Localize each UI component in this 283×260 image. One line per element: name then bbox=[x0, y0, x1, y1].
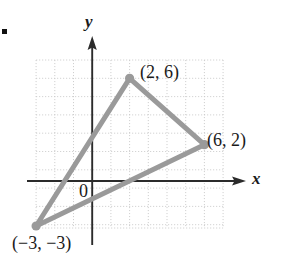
x-axis-label: x bbox=[252, 170, 261, 187]
point-label-2-6: (2, 6) bbox=[140, 63, 179, 81]
point-label-neg3-neg3: (−3, −3) bbox=[12, 234, 71, 252]
grid-lines bbox=[36, 60, 223, 228]
y-axis-label: y bbox=[85, 13, 93, 30]
vertex-dot-bottom-left bbox=[31, 221, 40, 230]
point-label-6-2: (6, 2) bbox=[207, 131, 246, 149]
vertex-dot-top bbox=[125, 74, 134, 83]
origin-label: 0 bbox=[79, 182, 88, 200]
triangle-shape bbox=[36, 78, 204, 226]
figure-container: y x 0 (2, 6) (6, 2) (−3, −3) bbox=[0, 0, 283, 260]
